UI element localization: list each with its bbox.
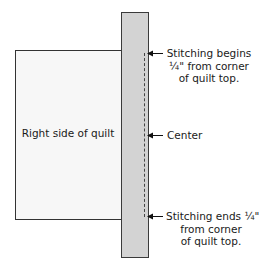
callout-line: of quilt top. <box>166 72 252 85</box>
callout-line: from corner <box>166 223 256 236</box>
arrow-left-icon <box>147 50 163 57</box>
callout-center: Center <box>167 129 202 142</box>
callout-line: of quilt top. <box>166 235 256 248</box>
quilt-label: Right side of quilt <box>15 127 121 139</box>
callout-stitching-ends: Stitching ends ¼" from corner of quilt t… <box>166 210 256 248</box>
callout-line: ¼" from corner <box>166 60 252 73</box>
arrow-left-icon <box>147 213 163 220</box>
binding-diagram: Right side of quilt Stitching begins ¼" … <box>0 0 264 274</box>
callout-stitching-begins: Stitching begins ¼" from corner of quilt… <box>166 47 252 85</box>
callout-line: Center <box>167 129 202 142</box>
arrow-left-icon <box>147 132 163 139</box>
stitching-line <box>144 53 145 217</box>
callout-line: Stitching ends ¼" <box>166 210 256 223</box>
callout-line: Stitching begins <box>166 47 252 60</box>
